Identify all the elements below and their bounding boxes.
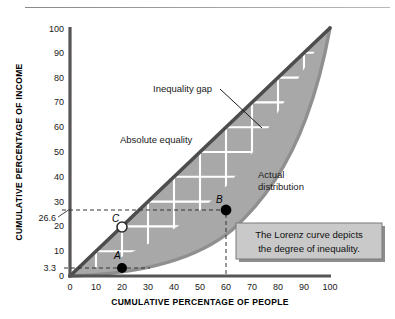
point-a-marker [117, 263, 127, 273]
absolute-equality-label: Absolute equality [120, 134, 193, 145]
x-axis-title: CUMULATIVE PERCENTAGE OF PEOPLE [111, 297, 289, 307]
lorenz-chart-svg: 0 10 20 30 40 50 60 70 80 90 100 0 10 20… [0, 0, 395, 319]
y-axis-title: CUMULATIVE PERCENTAGE OF INCOME [14, 63, 24, 240]
y-tick-10: 10 [54, 246, 64, 256]
y-tick-60: 60 [54, 122, 64, 132]
y-tick-70: 70 [54, 97, 64, 107]
x-tick-80: 80 [273, 282, 283, 292]
y-tick-3-3: 3.3 [43, 263, 56, 273]
x-tick-40: 40 [169, 282, 179, 292]
y-tick-26-6: 26.6 [38, 213, 56, 223]
y-tick-90: 90 [54, 48, 64, 58]
point-c-label: C [112, 213, 120, 224]
x-tick-90: 90 [299, 282, 309, 292]
y-tick-labels: 0 10 20 30 40 50 60 70 80 90 100 3.3 26.… [38, 24, 64, 282]
x-tick-20: 20 [117, 282, 127, 292]
actual-distribution-label-line2: distribution [258, 181, 304, 192]
y-tick-40: 40 [54, 172, 64, 182]
x-tick-100: 100 [322, 282, 337, 292]
y-tick-80: 80 [54, 73, 64, 83]
point-a-label: A [113, 250, 121, 261]
callout-line-1: The Lorenz curve depicts [255, 229, 363, 240]
y-tick-30: 30 [54, 197, 64, 207]
y-tick-0: 0 [59, 271, 64, 281]
callout-line-2: the degree of inequality. [258, 243, 360, 254]
x-tick-0: 0 [67, 282, 72, 292]
x-tick-60: 60 [221, 282, 231, 292]
y-tick-50: 50 [54, 147, 64, 157]
y-tick-100: 100 [49, 24, 64, 34]
x-tick-30: 30 [143, 282, 153, 292]
x-tick-70: 70 [247, 282, 257, 292]
point-b-label: B [216, 194, 223, 205]
x-tick-50: 50 [195, 282, 205, 292]
point-b-marker [221, 205, 232, 216]
x-tick-labels: 0 10 20 30 40 50 60 70 80 90 100 [67, 282, 337, 292]
lorenz-curve-figure: 0 10 20 30 40 50 60 70 80 90 100 0 10 20… [0, 0, 395, 319]
inequality-gap-label: Inequality gap [153, 83, 212, 94]
x-tick-10: 10 [91, 282, 101, 292]
callout-box: The Lorenz curve depicts the degree of i… [236, 223, 385, 262]
actual-distribution-label-line1: Actual [258, 169, 284, 180]
